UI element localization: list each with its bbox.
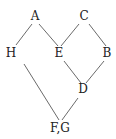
node-b: B [103, 46, 112, 60]
edge-e-d [64, 61, 81, 83]
node-c: C [79, 9, 88, 23]
edge-a-e [39, 24, 58, 46]
edge-d-fg [62, 98, 78, 120]
node-a: A [30, 9, 40, 23]
edge-h-fg [24, 64, 59, 120]
edge-c-e [61, 24, 79, 46]
hasse-diagram: A C H E B D F,G [0, 0, 116, 139]
edge-c-b [89, 24, 106, 46]
node-h: H [6, 46, 16, 60]
edges [16, 24, 106, 120]
nodes: A C H E B D F,G [6, 9, 112, 135]
node-fg: F,G [50, 121, 70, 135]
node-e: E [55, 46, 64, 60]
node-d: D [78, 82, 88, 96]
edge-a-h [16, 24, 32, 45]
edge-b-d [86, 61, 104, 83]
